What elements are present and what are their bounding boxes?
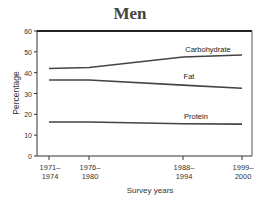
y-tick-label: 40	[24, 70, 32, 77]
x-tick-label: 1974	[42, 172, 59, 181]
x-tick-label: 1999–	[233, 163, 255, 172]
series-line-fat	[49, 80, 242, 88]
x-tick-label: 1980	[82, 172, 99, 181]
series-label-carbohydrate: Carbohydrate	[185, 45, 230, 54]
x-tick-label: 2000	[235, 172, 252, 181]
y-axis-label: Percentage	[11, 71, 21, 115]
line-chart: 01020304050601971–19741976–19801988–1994…	[0, 0, 260, 208]
y-tick-label: 10	[24, 132, 32, 139]
x-tick-label: 1988–	[174, 163, 196, 172]
y-tick-label: 50	[24, 49, 32, 56]
x-tick-label: 1971–	[40, 163, 62, 172]
x-tick-label: 1994	[176, 172, 193, 181]
y-tick-label: 30	[24, 91, 32, 98]
y-tick-label: 60	[24, 28, 32, 35]
y-tick-label: 20	[24, 111, 32, 118]
x-tick-label: 1976–	[80, 163, 102, 172]
series-label-fat: Fat	[184, 72, 196, 81]
series-line-protein	[49, 122, 242, 124]
y-tick-label: 0	[28, 153, 32, 160]
series-line-carbohydrate	[49, 55, 242, 69]
x-axis-label: Survey years	[127, 186, 174, 195]
series-label-protein: Protein	[184, 112, 208, 121]
